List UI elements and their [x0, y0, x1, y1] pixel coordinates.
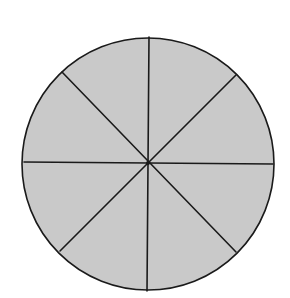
divided-circle-diagram — [0, 0, 290, 298]
center-point — [146, 161, 150, 165]
